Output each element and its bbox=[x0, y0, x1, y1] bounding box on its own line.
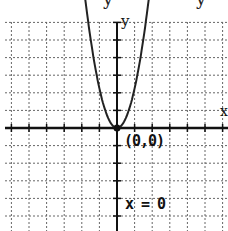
vertex-label: (0,0) bbox=[124, 134, 164, 149]
x-axis-label: x bbox=[220, 104, 228, 118]
vertex-point bbox=[114, 125, 121, 132]
coordinate-graph bbox=[0, 0, 228, 231]
axis-of-symmetry-label: x = 0 bbox=[125, 197, 165, 212]
y-axis-label: y bbox=[121, 14, 129, 29]
